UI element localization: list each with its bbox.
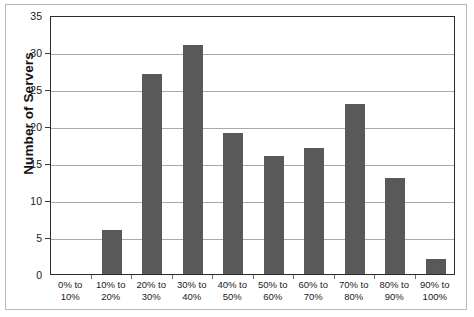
x-axis-label-line: 70% to [334, 279, 375, 291]
x-axis-label-line: 80% to [374, 279, 415, 291]
x-axis-label: 90% to100% [415, 279, 456, 303]
plot-area [50, 16, 455, 275]
x-axis-label-line: 100% [415, 291, 456, 303]
x-axis-label: 70% to80% [334, 279, 375, 303]
bar[interactable] [223, 133, 243, 274]
bar[interactable] [385, 178, 405, 274]
bar[interactable] [183, 45, 203, 274]
y-axis-tick-label: 25 [18, 85, 42, 95]
x-axis-label: 20% to30% [131, 279, 172, 303]
x-axis-label-line: 40% to [212, 279, 253, 291]
x-axis-label-line: 60% [253, 291, 294, 303]
y-axis-tick-label: 0 [18, 270, 42, 280]
x-axis-label: 60% to70% [293, 279, 334, 303]
bar-slot [254, 17, 295, 274]
bar[interactable] [345, 104, 365, 274]
bar-chart: Number of Servers 05101520253035 0% to10… [0, 0, 474, 317]
y-axis-tick-label: 10 [18, 196, 42, 206]
y-axis-tick-label: 15 [18, 159, 42, 169]
x-axis-label-line: 50% to [253, 279, 294, 291]
y-axis-tick-label: 35 [18, 11, 42, 21]
y-axis-tick-label: 5 [18, 233, 42, 243]
x-axis-label-line: 20% to [131, 279, 172, 291]
x-axis-label-line: 20% [91, 291, 132, 303]
x-axis-label-line: 30% to [172, 279, 213, 291]
x-axis-label: 10% to20% [91, 279, 132, 303]
bar[interactable] [142, 74, 162, 274]
x-axis-label-line: 10% [50, 291, 91, 303]
x-axis-label-line: 80% [334, 291, 375, 303]
x-axis-label-line: 40% [172, 291, 213, 303]
y-axis-tick-label: 30 [18, 48, 42, 58]
x-axis-label: 0% to10% [50, 279, 91, 303]
bar[interactable] [304, 148, 324, 274]
x-axis-label-line: 50% [212, 291, 253, 303]
x-axis-label-line: 90% to [415, 279, 456, 291]
bar-slot [132, 17, 173, 274]
x-axis-label-line: 70% [293, 291, 334, 303]
x-axis-label-line: 30% [131, 291, 172, 303]
bar[interactable] [102, 230, 122, 274]
x-axis-label: 40% to50% [212, 279, 253, 303]
bar-slot [416, 17, 457, 274]
bar-slot [375, 17, 416, 274]
bar[interactable] [264, 156, 284, 274]
y-axis-tick-label: 20 [18, 122, 42, 132]
x-axis-label-line: 10% to [91, 279, 132, 291]
bar-slot [173, 17, 214, 274]
x-axis-label-line: 60% to [293, 279, 334, 291]
x-axis-label: 80% to90% [374, 279, 415, 303]
x-axis-label: 30% to40% [172, 279, 213, 303]
x-axis-label: 50% to60% [253, 279, 294, 303]
bar-slot [335, 17, 376, 274]
bar-slot [92, 17, 133, 274]
x-axis-label-line: 90% [374, 291, 415, 303]
x-axis-label-line: 0% to [50, 279, 91, 291]
bar[interactable] [426, 259, 446, 274]
bar-slot [51, 17, 92, 274]
bar-slot [294, 17, 335, 274]
bar-slot [213, 17, 254, 274]
